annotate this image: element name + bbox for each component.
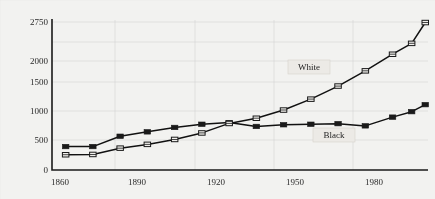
axis-lines (52, 19, 428, 170)
x-tick-1890: 1890 (128, 177, 147, 187)
y-tick-2750: 2750 (30, 17, 49, 27)
data-point-black-1865 (62, 144, 69, 149)
chart-figure: 2750 2000 1500 1000 500 0 1860 1890 1920… (0, 0, 435, 199)
data-point-black-1992 (408, 109, 415, 114)
data-point-black-1945 (280, 123, 287, 128)
y-tick-0: 0 (44, 165, 49, 175)
data-point-black-1965 (335, 121, 342, 126)
y-tick-500: 500 (35, 135, 49, 145)
data-point-black-1895 (144, 130, 151, 135)
y-tick-2000: 2000 (30, 56, 49, 66)
line-chart: 2750 2000 1500 1000 500 0 1860 1890 1920… (0, 0, 435, 199)
x-tick-1980: 1980 (365, 177, 384, 187)
data-point-black-1875 (90, 144, 97, 149)
data-point-black-1885 (117, 134, 124, 139)
y-tick-1000: 1000 (30, 106, 49, 116)
annotation-black: Black (313, 128, 355, 142)
annotation-white: White (288, 60, 330, 74)
annotation-black-label: Black (324, 130, 345, 140)
data-point-black-1985 (389, 115, 396, 120)
series-layer (62, 20, 428, 157)
data-point-black-1997 (422, 102, 429, 107)
data-point-black-1955 (308, 122, 315, 127)
grid-horizontal (52, 22, 428, 140)
data-point-black-1915 (199, 122, 206, 127)
y-tick-1500: 1500 (30, 77, 49, 87)
grid-vertical (115, 20, 353, 170)
x-tick-1950: 1950 (286, 177, 305, 187)
data-point-black-1905 (171, 125, 178, 130)
data-point-black-1975 (362, 124, 369, 129)
data-point-black-1935 (253, 124, 260, 129)
annotation-white-label: White (298, 62, 320, 72)
x-tick-1920: 1920 (207, 177, 226, 187)
x-tick-1860: 1860 (51, 177, 70, 187)
